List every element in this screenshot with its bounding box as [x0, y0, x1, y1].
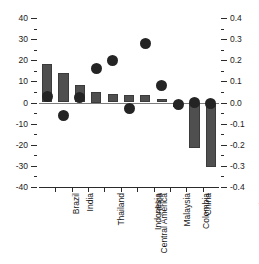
right-axis-tick-label: -0.2	[230, 141, 245, 150]
category-label: Africa	[155, 193, 164, 215]
category-label: Thailand	[117, 193, 126, 226]
data-point-marker	[189, 97, 200, 108]
right-axis-tick	[221, 187, 227, 188]
right-axis-minor-tick	[221, 29, 224, 30]
right-axis-minor-tick	[221, 50, 224, 51]
left-axis-minor-tick	[34, 92, 37, 93]
right-axis-tick	[221, 103, 227, 104]
data-point-marker	[205, 98, 216, 109]
right-axis-minor-tick	[221, 176, 224, 177]
x-axis-tick	[154, 188, 155, 192]
category-label: China	[204, 193, 213, 215]
right-axis-minor-tick	[221, 71, 224, 72]
x-axis-baseline	[39, 187, 219, 188]
left-axis-tick-label: -20	[2, 141, 28, 150]
data-point-marker	[124, 103, 135, 114]
x-axis-tick	[72, 188, 73, 192]
data-point-marker	[74, 92, 85, 103]
data-point-marker	[42, 91, 53, 102]
right-axis-minor-tick	[221, 155, 224, 156]
left-axis-tick	[31, 39, 37, 40]
x-axis-tick	[121, 188, 122, 192]
left-axis-tick	[31, 187, 37, 188]
right-axis-tick-label: 0.4	[230, 14, 242, 23]
left-axis-tick	[31, 145, 37, 146]
right-axis-minor-tick	[221, 134, 224, 135]
right-axis-tick-label: -0.3	[230, 162, 245, 171]
left-axis-minor-tick	[34, 71, 37, 72]
left-axis-tick	[31, 18, 37, 19]
data-point-marker	[156, 80, 167, 91]
left-axis-minor-tick	[34, 29, 37, 30]
x-axis-tick	[170, 188, 171, 192]
right-axis-tick-label: -0.1	[230, 119, 245, 128]
right-axis-tick	[221, 124, 227, 125]
x-axis-tick	[55, 188, 56, 192]
left-axis-tick-label: 40	[2, 14, 28, 23]
right-axis-tick-label: 0.2	[230, 56, 242, 65]
data-point-marker	[107, 55, 118, 66]
category-label: Malaysia	[183, 193, 192, 227]
left-axis-minor-tick	[34, 134, 37, 135]
x-axis-tick	[88, 188, 89, 192]
left-axis-tick	[31, 103, 37, 104]
category-label: Brazil	[72, 193, 81, 214]
right-axis-tick-label: 0.3	[230, 35, 242, 44]
x-axis-tick	[104, 188, 105, 192]
data-point-marker	[58, 110, 69, 121]
left-axis-tick-label: 10	[2, 77, 28, 86]
left-axis-tick-label: -40	[2, 183, 28, 192]
right-axis-minor-tick	[221, 113, 224, 114]
x-axis-tick	[137, 188, 138, 192]
left-axis-tick	[31, 81, 37, 82]
right-axis-tick	[221, 60, 227, 61]
right-axis-tick	[221, 18, 227, 19]
right-axis-minor-tick	[221, 92, 224, 93]
left-axis-minor-tick	[34, 155, 37, 156]
left-axis-tick-label: 20	[2, 56, 28, 65]
left-axis-tick-label: 30	[2, 35, 28, 44]
data-point-marker	[140, 38, 151, 49]
plot-area	[39, 18, 219, 187]
left-axis-tick	[31, 60, 37, 61]
left-axis-minor-tick	[34, 50, 37, 51]
left-axis-tick-label: -30	[2, 162, 28, 171]
dot-series	[39, 18, 219, 187]
right-axis-tick-label: -0.4	[230, 183, 245, 192]
x-axis-tick	[186, 188, 187, 192]
category-label: India	[86, 193, 95, 211]
right-axis-tick	[221, 145, 227, 146]
left-axis-tick	[31, 124, 37, 125]
right-axis-tick-label: 0.0	[230, 98, 242, 107]
right-axis-tick	[221, 81, 227, 82]
data-point-marker	[91, 63, 102, 74]
right-axis-tick-label: 0.1	[230, 77, 242, 86]
left-axis-tick-label: 0	[2, 98, 28, 107]
x-axis-tick	[203, 188, 204, 192]
left-axis-tick	[31, 166, 37, 167]
data-point-marker	[173, 99, 184, 110]
left-axis-minor-tick	[34, 176, 37, 177]
left-axis-minor-tick	[34, 113, 37, 114]
right-axis-tick	[221, 166, 227, 167]
left-axis-tick-label: -10	[2, 119, 28, 128]
right-axis-tick	[221, 39, 227, 40]
chart-container: 403020100-10-20-30-40 0.40.30.20.10.0-0.…	[0, 0, 259, 264]
